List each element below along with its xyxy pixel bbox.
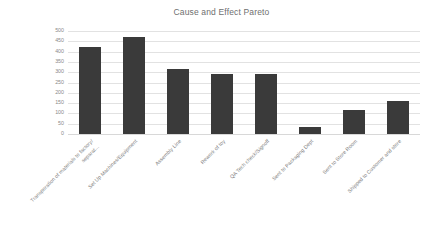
- gridline-0: [68, 134, 420, 135]
- y-tick-label: 100: [38, 110, 64, 115]
- y-tick-label: 250: [38, 80, 64, 85]
- y-tick-label: 300: [38, 69, 64, 74]
- bar[interactable]: [387, 101, 409, 134]
- x-label-slot: QA Tech check/Signoff: [244, 136, 288, 232]
- bar-slot: [68, 31, 112, 134]
- pareto-chart: Cause and Effect Pareto 5004504003503002…: [0, 0, 443, 232]
- x-tick-label: Transporation of materials to factory/se…: [29, 138, 101, 210]
- bar[interactable]: [255, 74, 277, 134]
- bar[interactable]: [79, 47, 101, 134]
- bar[interactable]: [123, 37, 145, 134]
- bar-series: [68, 31, 420, 134]
- y-tick-label: 500: [38, 28, 64, 33]
- bar-slot: [244, 31, 288, 134]
- bar[interactable]: [211, 74, 233, 134]
- bar-slot: [332, 31, 376, 134]
- y-tick-label: 150: [38, 100, 64, 105]
- y-tick-label: 200: [38, 90, 64, 95]
- bar-slot: [200, 31, 244, 134]
- x-tick-label: Rework of toy: [199, 138, 227, 166]
- y-tick-label: 400: [38, 49, 64, 54]
- x-axis: Transporation of materials to factory/se…: [68, 136, 420, 232]
- bar-slot: [376, 31, 420, 134]
- y-tick-label: 450: [38, 38, 64, 43]
- x-label-slot: Sent to Packaging Dept: [288, 136, 332, 232]
- bar[interactable]: [343, 110, 365, 134]
- bar[interactable]: [299, 127, 321, 134]
- y-tick-label: 50: [38, 121, 64, 126]
- x-label-slot: Shipped to Customer and store: [376, 136, 420, 232]
- bar-slot: [288, 31, 332, 134]
- y-tick-label: 350: [38, 59, 64, 64]
- bar-slot: [112, 31, 156, 134]
- bar-slot: [156, 31, 200, 134]
- y-tick-label: 0: [38, 131, 64, 136]
- chart-title: Cause and Effect Pareto: [0, 7, 443, 17]
- bar[interactable]: [167, 69, 189, 134]
- x-label-slot: Assembly Line: [156, 136, 200, 232]
- x-label-slot: Rework of toy: [200, 136, 244, 232]
- x-label-slot: Set Up Machines/Equipment: [112, 136, 156, 232]
- x-tick-label: Assembly Line: [154, 138, 184, 168]
